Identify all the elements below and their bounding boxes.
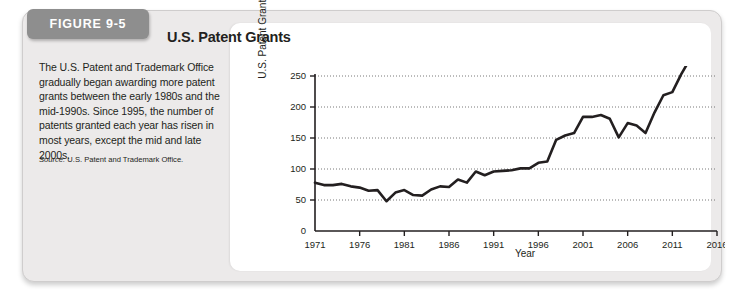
- x-tick-label: 2006: [617, 239, 638, 250]
- y-tick-label: 250: [290, 70, 306, 81]
- x-tick-label: 2016: [706, 239, 725, 250]
- figure-number-tab: FIGURE 9-5: [27, 9, 149, 39]
- chart-title: U.S. Patent Grants: [167, 29, 291, 45]
- figure-caption: The U.S. Patent and Trademark Office gra…: [39, 60, 221, 162]
- x-tick-label: 1981: [394, 239, 415, 250]
- x-tick-label: 1996: [528, 239, 549, 250]
- x-tick-label: 1991: [483, 239, 504, 250]
- y-tick-label: 100: [290, 163, 306, 174]
- x-tick-label: 1976: [349, 239, 370, 250]
- x-tick-label: 1986: [438, 239, 459, 250]
- figure-screenshot: The U.S. Patent and Trademark Office gra…: [0, 0, 746, 306]
- source-value: U.S. Patent and Trademark Office.: [65, 155, 183, 164]
- x-tick-label: 2011: [662, 239, 682, 250]
- caption-panel: The U.S. Patent and Trademark Office gra…: [23, 11, 230, 281]
- figure-source: Source: U.S. Patent and Trademark Office…: [39, 155, 225, 165]
- line-chart-svg: 0501001502002501971197619811986199119962…: [259, 66, 725, 266]
- y-tick-label: 0: [301, 225, 306, 236]
- source-label: Source:: [39, 155, 65, 164]
- x-tick-label: 2001: [572, 239, 593, 250]
- y-tick-label: 50: [295, 194, 306, 205]
- x-tick-label: 1971: [304, 239, 325, 250]
- figure-frame: The U.S. Patent and Trademark Office gra…: [22, 10, 722, 282]
- data-series-line: [315, 66, 690, 201]
- y-tick-label: 150: [290, 132, 306, 143]
- y-tick-label: 200: [290, 101, 306, 112]
- plot-area: U.S. Patent Grants (thousands) Year 0501…: [259, 66, 725, 266]
